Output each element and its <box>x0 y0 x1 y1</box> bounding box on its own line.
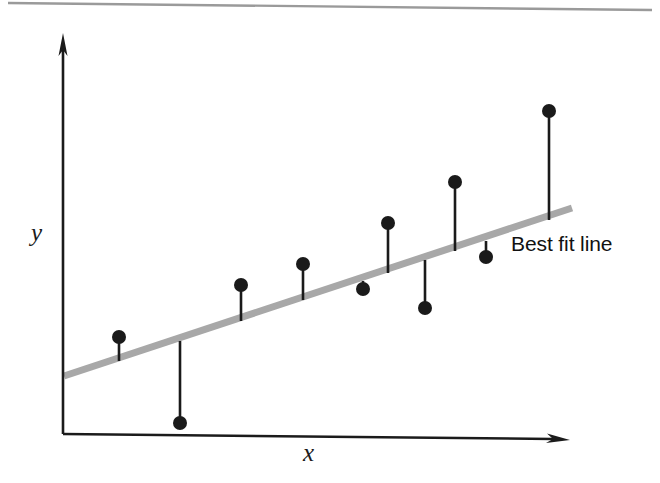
best-fit-line <box>64 208 572 376</box>
residual-stem-group <box>119 111 549 423</box>
data-point-group <box>112 104 556 430</box>
data-point <box>356 282 370 296</box>
data-point <box>296 257 310 271</box>
data-point <box>381 216 395 230</box>
data-point <box>479 250 493 264</box>
y-axis-label: y <box>31 220 42 245</box>
data-point <box>448 175 462 189</box>
data-point <box>542 104 556 118</box>
data-point <box>418 301 432 315</box>
data-point <box>234 278 248 292</box>
top-divider-rule <box>8 3 652 10</box>
data-point <box>112 330 126 344</box>
best-fit-line-label: Best fit line <box>511 233 612 254</box>
regression-figure: y x Best fit line <box>0 0 660 483</box>
data-point <box>173 416 187 430</box>
x-axis-label: x <box>303 440 314 465</box>
